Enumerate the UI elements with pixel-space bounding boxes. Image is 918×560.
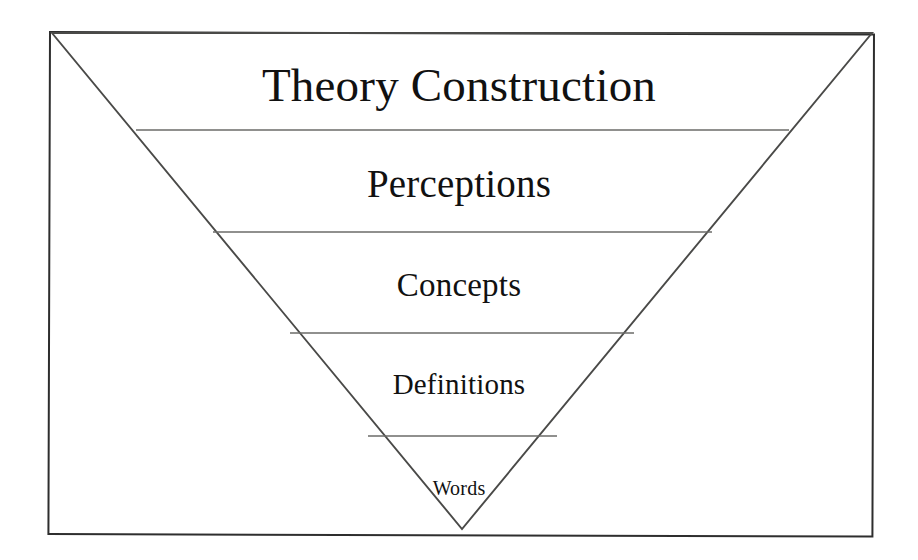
level-label-definitions: Definitions <box>0 370 918 399</box>
level-label-concepts: Concepts <box>0 269 918 302</box>
level-label-theory-construction: Theory Construction <box>0 62 918 109</box>
diagram-canvas: Theory Construction Perceptions Concepts… <box>0 0 918 560</box>
level-label-words: Words <box>0 478 918 498</box>
level-label-perceptions: Perceptions <box>0 164 918 203</box>
